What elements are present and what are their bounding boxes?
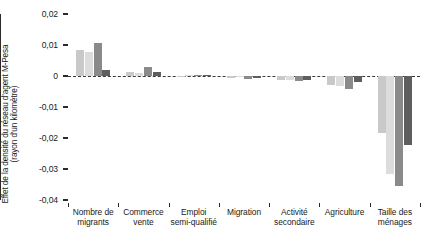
bar <box>345 76 353 89</box>
x-axis-label-line: vente <box>133 217 153 227</box>
bar <box>336 76 344 86</box>
x-tick-mark <box>68 203 69 207</box>
bar-group <box>227 14 261 200</box>
bar <box>354 76 362 82</box>
bar <box>135 73 143 76</box>
bar <box>185 75 193 76</box>
x-axis-label-line: Taille des <box>378 207 412 217</box>
y-tick-label: -0,02 <box>39 133 58 143</box>
bar <box>286 76 294 80</box>
bar <box>244 76 252 79</box>
x-tick-mark <box>420 203 421 207</box>
x-axis-label-line: Migration <box>227 207 261 217</box>
x-axis-label-line: migrants <box>77 217 109 227</box>
x-tick-mark <box>118 203 119 207</box>
bar <box>395 76 403 186</box>
x-tick-mark <box>219 203 220 207</box>
bar-series-area <box>68 14 420 200</box>
bar <box>303 76 311 80</box>
x-axis-label-line: Nombre de <box>73 207 114 217</box>
x-tick-mark <box>370 203 371 207</box>
y-tick-label: -0,03 <box>39 164 58 174</box>
x-axis-label-line: Agriculture <box>325 207 364 217</box>
bar <box>378 76 386 133</box>
y-axis-title-line2: (rayon d'un kilomètre) <box>11 86 20 163</box>
x-axis-label-line: Commerce <box>123 207 164 217</box>
x-axis-group-label: Nombre demigrants <box>73 207 114 228</box>
bar <box>404 76 412 145</box>
y-tick-label: 0 <box>53 71 58 81</box>
bar <box>295 76 303 81</box>
y-axis-title: Effet de la densité du réseau d'agent M-… <box>0 0 22 248</box>
bar-group <box>277 14 311 200</box>
bar <box>94 43 102 76</box>
bar <box>203 75 211 76</box>
bar-group <box>126 14 160 200</box>
x-axis-label-line: Activité <box>281 207 308 217</box>
x-tick-mark <box>269 203 270 207</box>
bar <box>153 72 161 76</box>
x-axis-group-label: Agriculture <box>325 207 364 217</box>
bar-group <box>327 14 361 200</box>
bar-group <box>76 14 110 200</box>
bar <box>177 76 185 77</box>
bar <box>227 76 235 78</box>
bar <box>386 76 394 174</box>
y-tick-label: 0,01 <box>42 40 58 50</box>
bar <box>144 67 152 76</box>
x-axis-group-label: Commercevente <box>123 207 164 228</box>
x-axis-label-line: ménages <box>378 217 412 227</box>
x-axis-label-line: secondaire <box>274 217 314 227</box>
bar-chart: Effet de la densité du réseau d'agent M-… <box>0 0 429 248</box>
bar <box>102 70 110 76</box>
y-axis-line <box>0 14 1 200</box>
bar <box>126 72 134 76</box>
y-tick-label: -0,01 <box>39 102 58 112</box>
y-tick-label: 0,02 <box>42 9 58 19</box>
bar <box>327 76 335 85</box>
bar <box>236 76 244 77</box>
x-axis-group-label: Taille desménages <box>378 207 412 228</box>
x-axis-group-label: Activitésecondaire <box>274 207 314 228</box>
x-axis-label-line: semi-qualifié <box>171 217 217 227</box>
bar <box>85 52 93 76</box>
y-tick-label: -0,04 <box>39 195 58 205</box>
x-axis-group-label: Emploisemi-qualifié <box>171 207 217 228</box>
bar <box>253 76 261 78</box>
x-axis-label-line: Emploi <box>181 207 206 217</box>
x-axis-group-label: Migration <box>227 207 261 217</box>
x-tick-mark <box>169 203 170 207</box>
bar-group <box>177 14 211 200</box>
bar <box>76 50 84 76</box>
x-tick-mark <box>319 203 320 207</box>
bar <box>194 75 202 76</box>
bar <box>277 76 285 80</box>
bar-group <box>378 14 412 200</box>
x-axis-labels: Nombre demigrantsCommerceventeEmploisemi… <box>60 203 429 248</box>
